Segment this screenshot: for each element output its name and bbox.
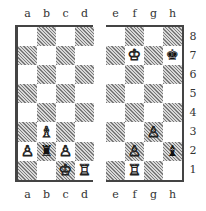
square-f7: ♔ bbox=[125, 46, 144, 65]
white-pawn-icon: ♙ bbox=[21, 144, 34, 159]
square-g4 bbox=[144, 103, 163, 122]
board-right-half: ♔♚♙♙♝♖ bbox=[106, 25, 184, 182]
square-d7 bbox=[75, 46, 94, 65]
square-h8 bbox=[163, 27, 182, 46]
board-grid-left: ♗♙♜♙♔♖ bbox=[18, 27, 94, 180]
rank-label: 3 bbox=[188, 122, 198, 141]
square-h7: ♚ bbox=[163, 46, 182, 65]
square-d4 bbox=[75, 103, 94, 122]
white-king-icon: ♔ bbox=[128, 48, 141, 63]
white-rook-icon: ♖ bbox=[128, 163, 141, 178]
square-e3 bbox=[106, 122, 125, 141]
rank-label: 7 bbox=[188, 46, 198, 65]
file-label: b bbox=[37, 7, 56, 20]
square-d1: ♖ bbox=[75, 161, 94, 180]
file-label: b bbox=[37, 188, 56, 201]
square-c6 bbox=[56, 65, 75, 84]
square-g5 bbox=[144, 84, 163, 103]
square-c5 bbox=[56, 84, 75, 103]
square-b3: ♗ bbox=[37, 122, 56, 141]
square-b1 bbox=[37, 161, 56, 180]
square-b4 bbox=[37, 103, 56, 122]
square-h6 bbox=[163, 65, 182, 84]
file-label: f bbox=[125, 7, 144, 20]
square-c2: ♙ bbox=[56, 142, 75, 161]
file-label: d bbox=[75, 188, 94, 201]
black-bishop-icon: ♝ bbox=[166, 144, 179, 159]
square-e4 bbox=[106, 103, 125, 122]
square-a6 bbox=[18, 65, 37, 84]
square-c1: ♔ bbox=[56, 161, 75, 180]
square-f4 bbox=[125, 103, 144, 122]
square-a1 bbox=[18, 161, 37, 180]
file-label: c bbox=[56, 7, 75, 20]
square-b6 bbox=[37, 65, 56, 84]
square-d6 bbox=[75, 65, 94, 84]
square-d5 bbox=[75, 84, 94, 103]
square-a8 bbox=[18, 27, 37, 46]
square-h3 bbox=[163, 122, 182, 141]
file-label: h bbox=[163, 7, 182, 20]
white-pawn-icon: ♙ bbox=[128, 144, 141, 159]
square-d8 bbox=[75, 27, 94, 46]
square-e8 bbox=[106, 27, 125, 46]
white-pawn-icon: ♙ bbox=[147, 125, 160, 140]
square-d3 bbox=[75, 122, 94, 141]
rank-label: 8 bbox=[188, 27, 198, 46]
rank-label: 2 bbox=[188, 141, 198, 160]
square-e7 bbox=[106, 46, 125, 65]
file-label: g bbox=[144, 7, 163, 20]
white-king-icon: ♔ bbox=[59, 163, 72, 178]
square-e2 bbox=[106, 142, 125, 161]
square-c4 bbox=[56, 103, 75, 122]
file-label: c bbox=[56, 188, 75, 201]
square-c3 bbox=[56, 122, 75, 141]
rank-label: 4 bbox=[188, 103, 198, 122]
white-pawn-icon: ♙ bbox=[59, 144, 72, 159]
square-f5 bbox=[125, 84, 144, 103]
file-label: a bbox=[18, 188, 37, 201]
square-f1: ♖ bbox=[125, 161, 144, 180]
square-f2: ♙ bbox=[125, 142, 144, 161]
square-b7 bbox=[37, 46, 56, 65]
square-g7 bbox=[144, 46, 163, 65]
square-f3 bbox=[125, 122, 144, 141]
square-a4 bbox=[18, 103, 37, 122]
board-left-half: ♗♙♜♙♔♖ bbox=[15, 25, 93, 182]
square-b5 bbox=[37, 84, 56, 103]
file-label: d bbox=[75, 7, 94, 20]
square-h5 bbox=[163, 84, 182, 103]
file-label: e bbox=[106, 7, 125, 20]
rank-label: 1 bbox=[188, 160, 198, 179]
file-label: e bbox=[106, 188, 125, 201]
file-label: f bbox=[125, 188, 144, 201]
board-grid-right: ♔♚♙♙♝♖ bbox=[106, 27, 182, 180]
square-b2: ♜ bbox=[37, 142, 56, 161]
white-rook-icon: ♖ bbox=[78, 163, 91, 178]
file-label: g bbox=[144, 188, 163, 201]
square-a7 bbox=[18, 46, 37, 65]
black-rook-icon: ♜ bbox=[40, 144, 53, 159]
file-label: a bbox=[18, 7, 37, 20]
square-c7 bbox=[56, 46, 75, 65]
white-bishop-icon: ♗ bbox=[40, 125, 53, 140]
black-king-icon: ♚ bbox=[166, 48, 179, 63]
square-a3 bbox=[18, 122, 37, 141]
square-b8 bbox=[37, 27, 56, 46]
square-h4 bbox=[163, 103, 182, 122]
square-d2 bbox=[75, 142, 94, 161]
rank-label: 6 bbox=[188, 65, 198, 84]
file-label: h bbox=[163, 188, 182, 201]
square-h1 bbox=[163, 161, 182, 180]
square-a2: ♙ bbox=[18, 142, 37, 161]
square-g1 bbox=[144, 161, 163, 180]
square-e6 bbox=[106, 65, 125, 84]
square-g2 bbox=[144, 142, 163, 161]
square-c8 bbox=[56, 27, 75, 46]
rank-label: 5 bbox=[188, 84, 198, 103]
square-e1 bbox=[106, 161, 125, 180]
square-g8 bbox=[144, 27, 163, 46]
square-h2: ♝ bbox=[163, 142, 182, 161]
square-f8 bbox=[125, 27, 144, 46]
square-g6 bbox=[144, 65, 163, 84]
